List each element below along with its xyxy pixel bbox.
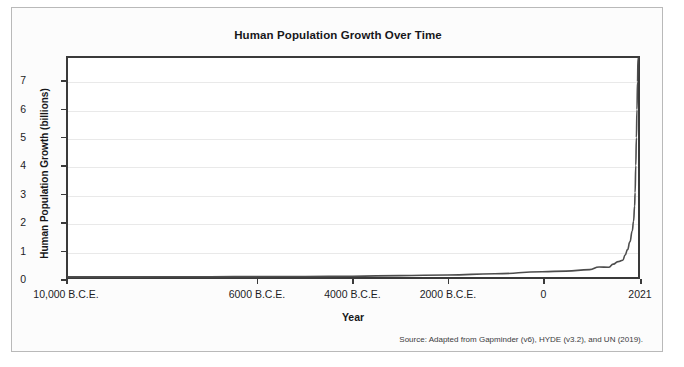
x-tick-mark — [640, 279, 642, 284]
figure-panel: Human Population Growth Over Time Human … — [11, 7, 663, 352]
x-tick-label: 2021 — [580, 288, 684, 300]
y-tick-label: 1 — [0, 245, 26, 257]
y-tick-label: 5 — [0, 131, 26, 143]
x-tick-mark — [543, 279, 545, 284]
y-tick-label: 6 — [0, 103, 26, 115]
y-tick-label: 4 — [0, 159, 26, 171]
page-title: Human Population Growth Over Time — [12, 29, 664, 41]
x-tick-mark — [448, 279, 450, 284]
y-tick-label: 3 — [0, 188, 26, 200]
x-tick-label: 10,000 B.C.E. — [6, 288, 126, 300]
x-tick-mark — [352, 279, 354, 284]
plot-area — [66, 56, 640, 279]
x-tick-mark — [257, 279, 259, 284]
source-note: Source: Adapted from Gapminder (v6), HYD… — [399, 335, 643, 344]
y-axis-label: Human Population Growth (billions) — [39, 74, 50, 274]
y-tick-label: 2 — [0, 216, 26, 228]
x-axis-label: Year — [66, 311, 640, 323]
population-curve — [68, 58, 638, 277]
x-tick-mark — [66, 279, 68, 284]
y-tick-label: 0 — [0, 273, 26, 285]
y-tick-label: 7 — [0, 74, 26, 86]
